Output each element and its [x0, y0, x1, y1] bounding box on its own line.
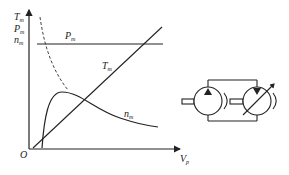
torque-label: Tm [102, 60, 113, 72]
speed-dashed-curve [40, 17, 68, 90]
hydraulic-schematic [182, 80, 276, 121]
x-axis-label: Vp [180, 153, 189, 165]
torque-line [33, 27, 162, 148]
svg-text:nm: nm [14, 34, 24, 46]
characteristic-diagram: Tm Pm nm O Vp Pm Tm nm [0, 0, 289, 175]
y-axis-labels: Tm Pm nm [13, 11, 25, 46]
power-label: Pm [64, 30, 76, 42]
origin-label: O [20, 149, 27, 160]
speed-label: nm [124, 108, 134, 120]
motor-shaft [230, 99, 243, 104]
svg-text:Tm: Tm [14, 11, 25, 23]
pump-shaft [182, 99, 194, 104]
speed-curve [42, 92, 158, 148]
